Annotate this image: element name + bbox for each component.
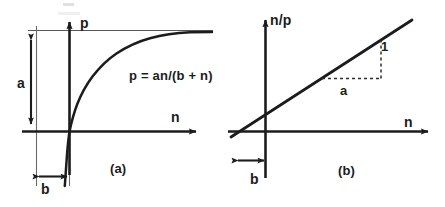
x-axis-label-n-b: n xyxy=(404,115,413,129)
slope-run-label-a: a xyxy=(340,84,347,97)
scan-artifact-top xyxy=(63,3,74,6)
scan-artifact-top-secondary xyxy=(58,12,80,15)
x-axis-label-n-a: n xyxy=(171,110,180,124)
equation-label: p = an/(b + n) xyxy=(129,69,213,82)
panel-label-b: (b) xyxy=(338,164,355,177)
offset-label-b-a: b xyxy=(41,182,50,196)
asymptote-magnitude-label-a: a xyxy=(17,76,25,90)
y-axis-label-n-over-p: n/p xyxy=(270,13,291,27)
linearized-line xyxy=(231,20,412,137)
slope-rise-label-one: 1 xyxy=(381,40,388,53)
panel-b-graph xyxy=(228,20,428,178)
saturation-curve xyxy=(65,32,212,186)
y-axis-label-p: p xyxy=(80,16,89,30)
offset-label-b-b: b xyxy=(250,172,259,186)
panel-label-a: (a) xyxy=(110,162,126,175)
figure-svg xyxy=(0,0,445,207)
figure-container: p n a b p = an/(b + n) (a) n/p n 1 a b (… xyxy=(0,0,445,207)
